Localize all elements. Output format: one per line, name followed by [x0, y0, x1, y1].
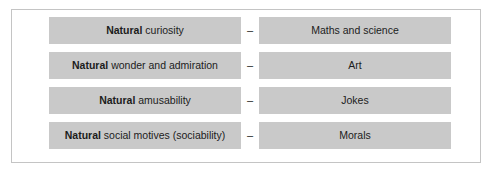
outcome-label: Morals [339, 130, 371, 142]
pair-row: Natural wonder and admiration – Art [49, 52, 452, 79]
disposition-lead-word: Natural [65, 129, 101, 141]
disposition-bar: Natural curiosity [49, 17, 241, 44]
outcome-bar: Maths and science [259, 17, 451, 44]
disposition-label: Natural curiosity [106, 25, 184, 37]
disposition-rest-text: curiosity [142, 24, 183, 36]
pair-row: Natural amusability – Jokes [49, 87, 452, 114]
disposition-rest-text: amusability [135, 94, 190, 106]
disposition-label: Natural social motives (sociability) [65, 130, 225, 142]
outcome-label: Maths and science [311, 25, 399, 37]
outcome-label: Jokes [341, 95, 368, 107]
disposition-label: Natural amusability [99, 95, 191, 107]
pair-row: Natural social motives (sociability) – M… [49, 122, 452, 149]
separator-dash: – [241, 25, 259, 36]
disposition-lead-word: Natural [72, 59, 108, 71]
pair-row: Natural curiosity – Maths and science [49, 17, 452, 44]
row-list: Natural curiosity – Maths and science Na… [12, 10, 480, 162]
outcome-bar: Art [259, 52, 451, 79]
disposition-bar: Natural amusability [49, 87, 241, 114]
outcome-label: Art [348, 60, 361, 72]
disposition-lead-word: Natural [106, 24, 142, 36]
disposition-bar: Natural social motives (sociability) [49, 122, 241, 149]
separator-dash: – [241, 60, 259, 71]
disposition-rest-text: wonder and admiration [108, 59, 218, 71]
disposition-bar: Natural wonder and admiration [49, 52, 241, 79]
separator-dash: – [241, 130, 259, 141]
separator-dash: – [241, 95, 259, 106]
disposition-label: Natural wonder and admiration [72, 60, 218, 72]
outcome-bar: Morals [259, 122, 451, 149]
disposition-rest-text: social motives (sociability) [101, 129, 225, 141]
disposition-lead-word: Natural [99, 94, 135, 106]
figure-frame: Natural curiosity – Maths and science Na… [11, 9, 481, 163]
outcome-bar: Jokes [259, 87, 451, 114]
